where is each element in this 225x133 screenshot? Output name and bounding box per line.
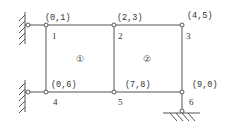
node-4-label: 4	[53, 97, 58, 107]
node-2	[112, 23, 116, 27]
frame-members	[46, 25, 182, 111]
left-wall-bottom-support	[19, 80, 46, 113]
node-1-label: 1	[52, 31, 57, 41]
node-5-dof: (7,8)	[125, 80, 151, 90]
node-4-dof: (0,6)	[51, 80, 77, 90]
node-3-label: 3	[186, 31, 191, 41]
frame-diagram: (0,1) (2,3) (4,5) (0,6) (7,8) (9,0) 1 2 …	[0, 0, 225, 133]
node-1-dof: (0,1)	[45, 13, 71, 23]
node-1	[44, 23, 48, 27]
element-2-label: ②	[143, 54, 151, 64]
node-2-dof: (2,3)	[117, 13, 143, 23]
left-wall-top-support	[19, 12, 46, 45]
node-5-label: 5	[118, 97, 123, 107]
node-2-label: 2	[118, 31, 123, 41]
node-6-dof: (9,0)	[192, 80, 218, 90]
ground-support	[163, 109, 200, 121]
node-4	[44, 90, 48, 94]
node-5	[112, 90, 116, 94]
node-6-label: 6	[189, 97, 194, 107]
element-1-label: ①	[76, 54, 84, 64]
node-6	[180, 90, 184, 94]
node-3	[180, 23, 184, 27]
node-3-dof: (4,5)	[187, 11, 213, 21]
